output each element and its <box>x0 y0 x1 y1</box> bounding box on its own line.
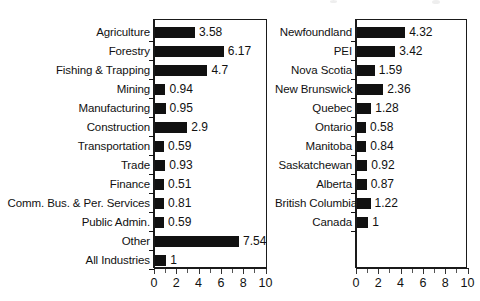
value-label: 1 <box>372 213 379 232</box>
value-tick-major <box>445 269 446 274</box>
value-label: 6.17 <box>228 42 251 61</box>
bar <box>155 84 165 95</box>
category-label: Quebec <box>275 99 352 118</box>
bar <box>357 27 405 38</box>
bar <box>357 103 371 114</box>
bar-row: Other7.54 <box>0 232 267 251</box>
bar <box>155 27 195 38</box>
category-label: Trade <box>0 156 150 175</box>
bar-row: Ontario0.58 <box>275 118 467 137</box>
bar <box>155 236 239 247</box>
bar <box>357 217 368 228</box>
value-label: 2.36 <box>387 80 410 99</box>
bar-row: Manitoba0.84 <box>275 137 467 156</box>
category-label: All Industries <box>0 251 150 270</box>
value-tick-minor <box>254 269 255 273</box>
bar <box>357 179 367 190</box>
category-label: Newfoundland <box>275 23 352 42</box>
bar <box>357 198 371 209</box>
bar-row: Manufacturing0.95 <box>0 99 267 118</box>
bar-row: Comm. Bus. & Per. Services0.81 <box>0 194 267 213</box>
value-tick-label: 6 <box>411 276 435 290</box>
category-label: Construction <box>0 118 150 137</box>
bar <box>155 255 166 266</box>
bar <box>357 65 375 76</box>
category-label: Fishing & Trapping <box>0 61 150 80</box>
bar <box>155 179 164 190</box>
value-tick-minor <box>367 269 368 273</box>
category-label: Other <box>0 232 150 251</box>
bar-row: Saskatchewan0.92 <box>275 156 467 175</box>
value-tick-minor <box>165 269 166 273</box>
category-label: Alberta <box>275 175 352 194</box>
value-label: 0.84 <box>370 137 393 156</box>
chart-panel-provinces: Newfoundland4.32PEI3.42Nova Scotia1.59Ne… <box>275 0 480 301</box>
category-label: New Brunswick <box>275 80 352 99</box>
category-label: Finance <box>0 175 150 194</box>
bar-row: Canada1 <box>275 213 467 232</box>
value-label: 1.22 <box>375 194 398 213</box>
category-label: Transportation <box>0 137 150 156</box>
bar-row: Public Admin.0.59 <box>0 213 267 232</box>
value-tick-major <box>221 269 222 274</box>
bar-row: Nova Scotia1.59 <box>275 61 467 80</box>
value-tick-minor <box>412 269 413 273</box>
value-tick-label: 4 <box>187 276 211 290</box>
value-tick-minor <box>389 269 390 273</box>
value-label: 0.93 <box>169 156 192 175</box>
value-tick-label: 4 <box>389 276 413 290</box>
value-label: 4.7 <box>211 61 228 80</box>
value-tick-label: 10 <box>254 276 278 290</box>
value-label: 3.58 <box>199 23 222 42</box>
bar-row: Fishing & Trapping4.7 <box>0 61 267 80</box>
value-tick-major <box>378 269 379 274</box>
value-tick-major <box>266 269 267 274</box>
bar <box>155 103 166 114</box>
category-label: Canada <box>275 213 352 232</box>
value-label: 1.28 <box>375 99 398 118</box>
value-tick-minor <box>434 269 435 273</box>
value-tick-label: 2 <box>366 276 390 290</box>
bar <box>155 160 165 171</box>
bar <box>357 141 366 152</box>
value-tick-minor <box>456 269 457 273</box>
bar <box>155 122 187 133</box>
value-tick-label: 0 <box>344 276 368 290</box>
bar <box>357 160 367 171</box>
category-label: PEI <box>275 42 352 61</box>
bar-row: Forestry6.17 <box>0 42 267 61</box>
value-tick-label: 8 <box>433 276 457 290</box>
bar-row: Newfoundland4.32 <box>275 23 467 42</box>
value-tick-major <box>199 269 200 274</box>
value-label: 2.9 <box>191 118 208 137</box>
category-label: Manitoba <box>275 137 352 156</box>
category-label: Ontario <box>275 118 352 137</box>
value-label: 0.59 <box>168 213 191 232</box>
bar <box>357 122 366 133</box>
value-tick-major <box>356 269 357 274</box>
category-label: Nova Scotia <box>275 61 352 80</box>
bar-row: Transportation0.59 <box>0 137 267 156</box>
category-label: Forestry <box>0 42 150 61</box>
value-tick-label: 2 <box>164 276 188 290</box>
value-tick-major <box>401 269 402 274</box>
category-label: Manufacturing <box>0 99 150 118</box>
category-label: Comm. Bus. & Per. Services <box>0 194 150 213</box>
value-tick-minor <box>232 269 233 273</box>
value-tick-major <box>154 269 155 274</box>
category-label: Mining <box>0 80 150 99</box>
value-tick-major <box>423 269 424 274</box>
category-label: Public Admin. <box>0 213 150 232</box>
value-tick-minor <box>187 269 188 273</box>
figure-two-bar-charts: Agriculture3.58Forestry6.17Fishing & Tra… <box>0 0 480 301</box>
value-label: 7.54 <box>243 232 266 251</box>
category-axis-line <box>154 19 155 268</box>
value-tick-label: 10 <box>456 276 480 290</box>
category-label: British Columbia <box>275 194 352 213</box>
value-label: 0.94 <box>169 80 192 99</box>
value-label: 0.51 <box>168 175 191 194</box>
value-label: 3.42 <box>399 42 422 61</box>
value-tick-major <box>176 269 177 274</box>
value-label: 0.81 <box>168 194 191 213</box>
value-tick-minor <box>210 269 211 273</box>
